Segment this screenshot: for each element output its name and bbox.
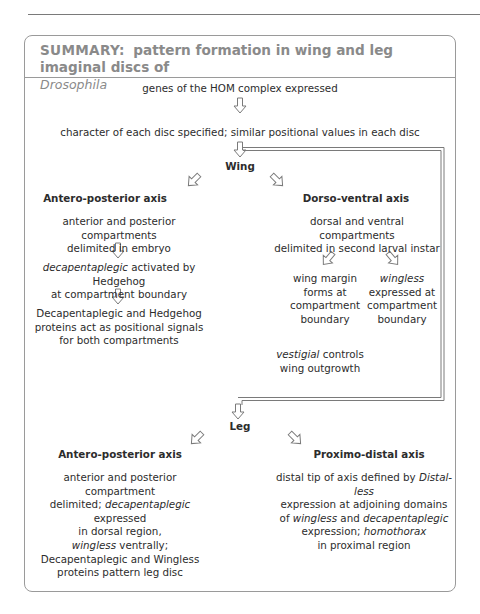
wing-ap-step1: anterior and posterior compartmentsdelim…	[30, 215, 208, 256]
wing-ap-title: Antero-posterior axis	[40, 192, 170, 206]
diag-arrow-icon	[184, 171, 203, 190]
leg-pd-text: distal tip of axis defined by Distal-les…	[268, 471, 460, 553]
step-disc-character: character of each disc specified; simila…	[60, 126, 420, 140]
wing-dv-step1: dorsal and ventral compartmentsdelimited…	[274, 215, 440, 256]
leg-ap-text: anterior and posterior compartment delim…	[30, 471, 210, 580]
leg-title: Leg	[215, 420, 265, 434]
wing-ap-step2: decapentaplegic activated by Hedgehogat …	[30, 261, 208, 302]
down-arrow-icon	[234, 98, 246, 113]
wing-ap-step3: Decapentaplegic and Hedgehogproteins act…	[30, 307, 208, 348]
leg-pd-title: Proximo-distal axis	[304, 448, 434, 462]
diag-arrow-icon	[268, 171, 287, 190]
diag-arrow-icon	[286, 429, 305, 448]
wing-margin-text: wing marginforms atcompartmentboundary	[280, 272, 370, 326]
wing-dv-title: Dorso-ventral axis	[296, 192, 416, 206]
step-hom-genes: genes of the HOM complex expressed	[140, 82, 340, 96]
down-arrow-icon	[232, 404, 244, 419]
diag-arrow-icon	[187, 429, 206, 448]
wing-title: Wing	[210, 160, 270, 174]
vestigial-text: vestigial controlswing outgrowth	[270, 348, 370, 375]
wingless-text: winglessexpressed atcompartmentboundary	[364, 272, 440, 326]
leg-ap-title: Antero-posterior axis	[55, 448, 185, 462]
down-arrow-icon	[234, 142, 246, 157]
